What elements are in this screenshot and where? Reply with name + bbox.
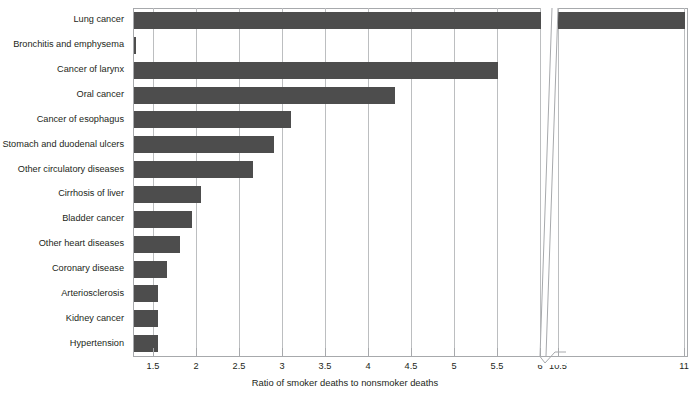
gridline (684, 8, 685, 356)
x-axis-tick-label: 5.5 (491, 361, 504, 371)
bar (134, 186, 201, 203)
x-axis-tick-label: 2.5 (233, 361, 246, 371)
bar (134, 136, 274, 153)
category-label: Other heart diseases (0, 238, 124, 249)
x-axis-break-notch (532, 349, 568, 369)
bar (134, 310, 158, 327)
x-axis-tick-label: 4.5 (405, 361, 418, 371)
x-axis-tick (411, 348, 412, 356)
x-axis-tick-label: 3.5 (319, 361, 332, 371)
x-axis-tick (684, 348, 685, 356)
x-axis-tick-label: 1.5 (147, 361, 160, 371)
bar (134, 285, 158, 302)
gridline (558, 8, 559, 356)
category-label: Cancer of esophagus (0, 114, 124, 125)
category-label: Coronary disease (0, 263, 124, 274)
gridline (196, 8, 197, 356)
category-label: Lung cancer (0, 14, 124, 25)
category-label: Oral cancer (0, 89, 124, 100)
category-label: Cancer of larynx (0, 64, 124, 75)
x-axis-tick (153, 348, 154, 356)
x-axis-tick-label: 3 (279, 361, 284, 371)
bar (134, 211, 192, 228)
chart-container: Lung cancerBronchitis and emphysemaCance… (0, 0, 690, 399)
gridline (153, 8, 154, 356)
bar (134, 111, 291, 128)
category-label: Other circulatory diseases (0, 164, 124, 175)
category-axis-labels: Lung cancerBronchitis and emphysemaCance… (0, 8, 128, 356)
category-label: Kidney cancer (0, 313, 124, 324)
gridline (368, 8, 369, 356)
plot-area (133, 8, 688, 356)
gridline (454, 8, 455, 356)
x-axis-tick (239, 348, 240, 356)
x-axis-tick (454, 348, 455, 356)
bar (134, 161, 253, 178)
x-axis-line (133, 356, 688, 357)
category-label: Bladder cancer (0, 213, 124, 224)
bar (134, 335, 158, 352)
x-axis-tick (282, 348, 283, 356)
x-axis-tick (325, 348, 326, 356)
gridline (282, 8, 283, 356)
bar (134, 261, 167, 278)
axis-break-mask (541, 8, 558, 356)
x-axis-tick-label: 4 (365, 361, 370, 371)
x-axis-title: Ratio of smoker deaths to nonsmoker deat… (0, 377, 690, 388)
x-axis-tick-label: 5 (451, 361, 456, 371)
x-axis-tick (497, 348, 498, 356)
x-axis-tick (368, 348, 369, 356)
bar (134, 62, 498, 79)
bar (134, 37, 136, 54)
category-label: Hypertension (0, 338, 124, 349)
x-axis-tick-label: 11 (679, 361, 689, 371)
category-label: Bronchitis and emphysema (0, 39, 124, 50)
category-label: Stomach and duodenal ulcers (0, 139, 124, 150)
gridline (239, 8, 240, 356)
bar (134, 236, 180, 253)
gridline (411, 8, 412, 356)
bar (134, 87, 395, 104)
x-axis-tick (196, 348, 197, 356)
gridline (325, 8, 326, 356)
bar (134, 12, 685, 29)
category-label: Arteriosclerosis (0, 288, 124, 299)
gridline (497, 8, 498, 356)
x-axis-tick-label: 2 (193, 361, 198, 371)
category-label: Cirrhosis of liver (0, 188, 124, 199)
